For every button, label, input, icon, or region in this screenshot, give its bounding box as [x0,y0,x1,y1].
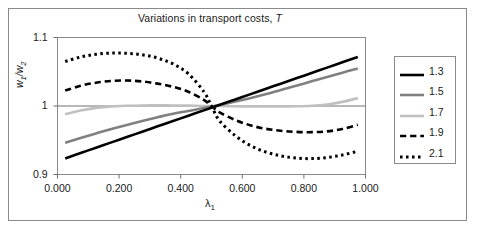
x-tick-label: 0.600 [220,182,264,194]
legend-item-1-5: 1.5 [395,81,457,102]
legend-item-1-9: 1.9 [395,122,457,143]
legend-label-1-9: 1.9 [429,126,444,138]
x-tick-label: 0.400 [159,182,203,194]
legend-item-2-1: 2.1 [395,142,457,163]
legend-swatch-1-5 [399,86,425,96]
x-tick-label: 0.200 [97,182,141,194]
x-tick-label: 1.000 [344,182,388,194]
y-axis-title: w1/w2 [13,62,28,88]
legend: 1.31.51.71.92.1 [394,56,456,164]
y-tick-label: 1 [18,99,48,111]
x-tick-label: 0.800 [282,182,326,194]
legend-swatch-1-7 [399,107,425,117]
legend-item-1-7: 1.7 [395,101,457,122]
y-tick-label: 0.9 [18,168,48,180]
legend-swatch-2-1 [399,148,425,158]
legend-label-1-3: 1.3 [429,65,444,77]
chart-figure: Variations in transport costs, T w1/w2 λ… [0,0,479,236]
legend-label-1-5: 1.5 [429,85,444,97]
legend-label-1-7: 1.7 [429,106,444,118]
legend-label-2-1: 2.1 [429,147,444,159]
legend-item-1-3: 1.3 [395,60,457,81]
x-axis-title: λ1 [150,197,270,212]
legend-swatch-1-3 [399,66,425,76]
x-tick-label: 0.000 [36,182,80,194]
y-tick-label: 1.1 [18,31,48,43]
legend-swatch-1-9 [399,127,425,137]
